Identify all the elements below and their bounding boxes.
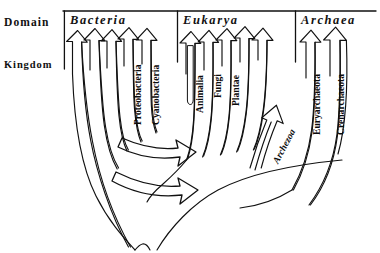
animalia-inner <box>187 46 193 105</box>
bacteria-arrow-1 <box>67 31 129 248</box>
bacteria-lineages <box>67 28 157 247</box>
kingdom-label-proteobacteria: Proteobacteria <box>132 64 143 125</box>
trunk-right-outer <box>157 160 342 250</box>
trunk-root-join <box>135 244 150 250</box>
kingdom-label-animalia: Animalia <box>194 75 205 113</box>
gene-transfer-arrows <box>112 138 198 204</box>
tree-of-life-diagram <box>0 0 380 253</box>
domain-label-archaea: Archaea <box>301 13 356 28</box>
kingdom-label-cyanobacteria: Cyanobacteria <box>150 65 161 125</box>
hgt-arrow-upper <box>118 138 196 166</box>
trunk-left-outer <box>73 74 136 250</box>
eukarya-arrow-5b <box>254 40 267 149</box>
archaea-trunk-inner <box>240 190 292 208</box>
hgt-arrow-lower <box>112 172 198 204</box>
kingdom-label-euryarchaeota: Euryarchaeota <box>311 74 322 135</box>
bacteria-arrow-1b <box>82 42 131 247</box>
domain-label-eukarya: Eukarya <box>183 13 239 28</box>
kingdom-label-fungi: Fungi <box>212 74 223 98</box>
axis-label-kingdom: Kingdom <box>4 59 52 70</box>
kingdom-label-crenarchaeota: Crenarchaeota <box>335 74 346 135</box>
axis-label-domain: Domain <box>4 16 50 28</box>
bacteria-arrow-3b <box>116 41 128 150</box>
domain-label-bacteria: Bacteria <box>70 13 127 28</box>
bacteria-arrow-2 <box>84 29 117 170</box>
kingdom-label-plantae: Plantae <box>230 75 241 106</box>
